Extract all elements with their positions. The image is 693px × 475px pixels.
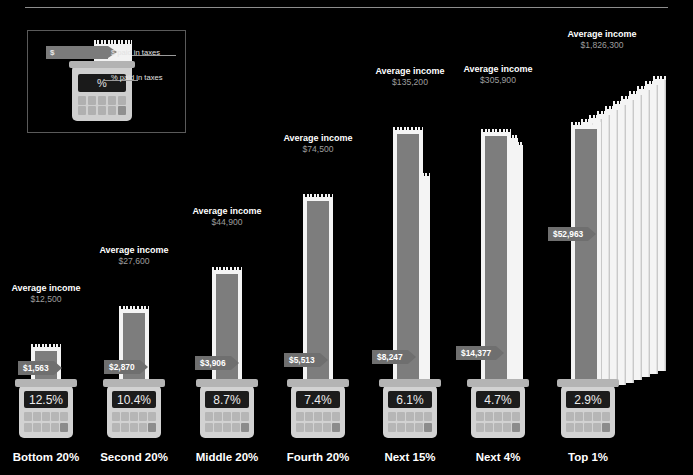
calculator-keypad (388, 412, 432, 432)
income-callout: Average income $27,600 (91, 244, 177, 267)
calculator-keypad (296, 412, 340, 432)
calculator-display: 7.4% (296, 391, 340, 408)
income-label: Average income (275, 132, 361, 144)
category-label: Bottom 20% (3, 451, 89, 463)
tax-amount-tag: $52,963 (548, 227, 588, 241)
category-label: Top 1% (545, 451, 631, 463)
calculator-shelf (287, 379, 349, 387)
calculator-shelf (379, 379, 441, 387)
receipt-perforation (119, 306, 149, 310)
category-label: Next 15% (367, 451, 453, 463)
legend-label-dollar: $ paid in taxes (111, 48, 160, 57)
calculator-shelf (103, 379, 165, 387)
calculator-base: 2.9% (561, 385, 615, 438)
calculator-shelf (15, 379, 77, 387)
income-label: Average income (367, 65, 453, 77)
receipt-perforation (393, 127, 423, 131)
calculator-keypad (476, 412, 520, 432)
calculator-display: 6.1% (388, 391, 432, 408)
tax-rate-value: 6.1% (396, 393, 423, 407)
calculator-base: 8.7% (200, 385, 254, 438)
tax-rate-value: 8.7% (213, 393, 240, 407)
income-value: $135,200 (367, 77, 453, 88)
income-value: $44,900 (184, 217, 270, 228)
calculator-display: 4.7% (476, 391, 520, 408)
tax-amount-value: $8,247 (377, 350, 403, 364)
calculator-keypad (112, 412, 156, 432)
tax-amount-value: $1,563 (23, 361, 49, 375)
tax-amount-value: $3,906 (200, 356, 226, 370)
income-callout: Average income $305,900 (455, 63, 541, 86)
calculator-display: 10.4% (112, 391, 156, 408)
receipt-fill (216, 274, 238, 391)
income-callout: Average income $44,900 (184, 205, 270, 228)
tax-amount-tag: $2,870 (104, 360, 140, 374)
tax-rate-value: 2.9% (574, 393, 601, 407)
tax-amount-value: $5,513 (289, 353, 315, 367)
tax-amount-tag: $8,247 (372, 350, 408, 364)
calculator-base: 10.4% (107, 385, 161, 438)
income-label: Average income (3, 282, 89, 294)
calculator-base: 6.1% (383, 385, 437, 438)
calculator-keypad (24, 412, 68, 432)
receipt-tape (212, 270, 242, 391)
tax-rate-value: 7.4% (304, 393, 331, 407)
income-callout: Average income $1,826,300 (559, 28, 645, 51)
legend-dollar-glyph: $ (50, 48, 54, 57)
legend-panel: $ % $ paid in taxes % paid in taxes (27, 30, 186, 133)
income-value: $12,500 (3, 294, 89, 305)
tax-amount-value: $14,377 (461, 346, 491, 360)
category-label: Second 20% (91, 451, 177, 463)
income-callout: Average income $135,200 (367, 65, 453, 88)
income-value: $27,600 (91, 256, 177, 267)
income-value: $1,826,300 (559, 40, 645, 51)
receipt-perforation (31, 344, 61, 348)
tax-rate-value: 10.4% (117, 393, 151, 407)
category-label: Fourth 20% (275, 451, 361, 463)
tax-amount-value: $52,963 (553, 227, 583, 241)
tax-amount-tag: $3,906 (195, 356, 231, 370)
income-value: $74,500 (275, 144, 361, 155)
calculator-shelf (196, 379, 258, 387)
income-label: Average income (559, 28, 645, 40)
infographic-canvas: $ % $ paid in taxes % paid in taxes Aver… (0, 0, 693, 475)
receipt-perforation (481, 129, 511, 133)
calculator-shelf (467, 379, 529, 387)
calculator-keypad (205, 412, 249, 432)
calculator-display: 2.9% (566, 391, 610, 408)
legend-label-percent: % paid in taxes (111, 73, 163, 82)
tax-amount-value: $2,870 (109, 360, 135, 374)
legend-dollar-slip-icon (46, 46, 108, 59)
income-label: Average income (184, 205, 270, 217)
income-callout: Average income $74,500 (275, 132, 361, 155)
calculator-shelf (557, 379, 619, 387)
income-label: Average income (91, 244, 177, 256)
category-label: Middle 20% (184, 451, 270, 463)
calculator-base: 7.4% (291, 385, 345, 438)
receipt-perforation (303, 194, 333, 198)
receipt-perforation (571, 122, 601, 126)
receipt-fill (575, 129, 597, 391)
receipt-tape (571, 125, 601, 391)
legend-calculator-keypad (78, 96, 126, 115)
legend-percent-glyph: % (97, 77, 107, 89)
income-label: Average income (455, 63, 541, 75)
top-divider-rule (25, 7, 668, 8)
tax-amount-tag: $1,563 (18, 361, 54, 375)
income-value: $305,900 (455, 75, 541, 86)
calculator-base: 12.5% (19, 385, 73, 438)
tax-amount-tag: $5,513 (284, 353, 320, 367)
receipt-perforation (212, 267, 242, 271)
tax-rate-value: 12.5% (29, 393, 63, 407)
category-label: Next 4% (455, 451, 541, 463)
calculator-keypad (566, 412, 610, 432)
receipt-perforation (94, 40, 132, 44)
tax-rate-value: 4.7% (484, 393, 511, 407)
tax-amount-tag: $14,377 (456, 346, 496, 360)
calculator-shelf (69, 61, 135, 68)
calculator-display: 8.7% (205, 391, 249, 408)
calculator-display: 12.5% (24, 391, 68, 408)
calculator-base: 4.7% (471, 385, 525, 438)
income-callout: Average income $12,500 (3, 282, 89, 305)
